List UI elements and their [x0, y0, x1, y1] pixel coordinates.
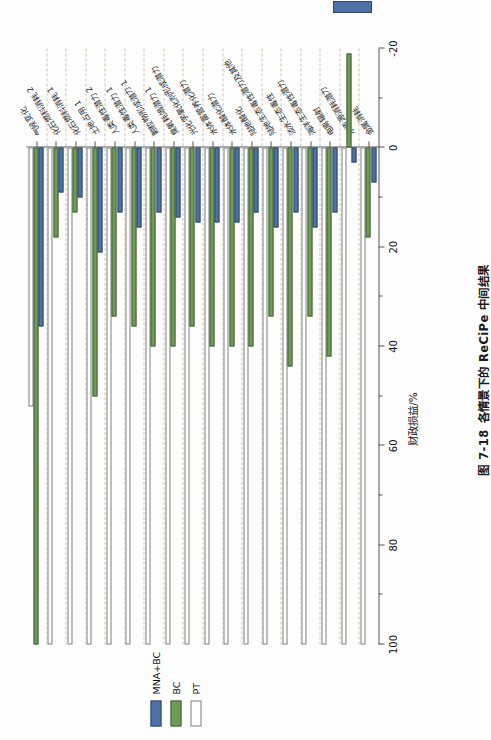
axis-tick-40 [378, 345, 384, 346]
bar-mna-bc-0 [38, 147, 43, 326]
bar-pt-13 [282, 147, 287, 644]
bar-mna-bc-13 [293, 147, 298, 212]
category-tick [310, 141, 311, 147]
category-tick [231, 141, 232, 147]
bar-pt-10 [223, 147, 228, 644]
bar-bc-11 [248, 147, 253, 346]
axis-tick-80 [378, 544, 384, 545]
bar-bc-15 [326, 147, 331, 356]
category-tick [368, 141, 369, 147]
figure-caption-number: 图 7-18 [477, 429, 491, 475]
bar-bc-4 [111, 147, 116, 316]
legend-swatch-mna-bc [150, 700, 161, 726]
legend-item-bc: BC [170, 651, 181, 726]
category-tick [36, 141, 37, 147]
axis-tick-0 [378, 146, 384, 147]
gridline [202, 48, 203, 644]
bar-mna-bc-8 [195, 147, 200, 222]
bar-mna-bc-5 [136, 147, 141, 226]
category-tick [192, 141, 193, 147]
axis-tick-20 [378, 246, 384, 247]
category-tick [212, 141, 213, 147]
axis-minor-tick-90 [378, 593, 382, 594]
bar-pt-0 [28, 147, 33, 405]
axis-ticklabel-100: 100 [387, 634, 398, 653]
legend-swatch-pt [190, 700, 201, 726]
bar-bc-3 [92, 147, 97, 395]
gridline [300, 48, 301, 644]
category-tick [329, 141, 330, 147]
axis-minor-tick-70 [378, 494, 382, 495]
bar-bc-6 [150, 147, 155, 346]
category-tick [173, 141, 174, 147]
axis-tick--20 [378, 47, 384, 48]
gridline [261, 48, 262, 644]
bar-pt-9 [204, 147, 209, 644]
axis-tick-100 [378, 643, 384, 644]
axis-ticklabel-20: 20 [387, 240, 398, 253]
value-axis-title: 财政损益/% [404, 392, 419, 446]
gridline [65, 48, 66, 644]
legend-item-mna-bc: MNA+BC [150, 651, 161, 726]
bar-pt-5 [125, 147, 130, 644]
category-tick [251, 141, 252, 147]
axis-ticklabel-60: 60 [387, 439, 398, 452]
gridline [241, 48, 242, 644]
figure-caption: 图 7-18各情景下的 ReCiPe 中间结果 [475, 220, 491, 520]
bar-mna-bc-3 [97, 147, 102, 251]
bar-bc-14 [307, 147, 312, 316]
category-tick [270, 141, 271, 147]
axis-ticklabel--20: -20 [387, 40, 398, 56]
category-tick [290, 141, 291, 147]
bar-mna-bc-14 [312, 147, 317, 226]
bar-mna-bc-12 [273, 147, 278, 226]
axis-minor-tick-50 [378, 395, 382, 396]
gridline [104, 48, 105, 644]
bar-mna-bc-4 [117, 147, 122, 212]
chart-plot-area: 100806040200-20 财政损益/% 气候变化化石燃料消耗 2化石燃料消… [26, 48, 378, 644]
bar-pt-16 [341, 147, 346, 644]
gridline [358, 48, 359, 644]
category-tick [153, 141, 154, 147]
bar-pt-6 [145, 147, 150, 644]
gridline [163, 48, 164, 644]
bar-pt-3 [86, 147, 91, 644]
legend-swatch-bc [170, 700, 181, 726]
category-tick [75, 141, 76, 147]
bar-pt-15 [321, 147, 326, 644]
gridline [222, 48, 223, 644]
bar-pt-12 [262, 147, 267, 644]
gridline [46, 48, 47, 644]
bar-pt-7 [165, 147, 170, 644]
gridline [280, 48, 281, 644]
figure-caption-text: 各情景下的 ReCiPe 中间结果 [477, 264, 491, 423]
bar-mna-bc-17 [371, 147, 376, 182]
bar-pt-17 [360, 147, 365, 644]
bar-mna-bc-7 [175, 147, 180, 217]
bar-pt-14 [301, 147, 306, 644]
category-tick [114, 141, 115, 147]
bar-pt-8 [184, 147, 189, 644]
gridline [319, 48, 320, 644]
gridline [143, 48, 144, 644]
axis-ticklabel-40: 40 [387, 340, 398, 353]
bar-pt-2 [67, 147, 72, 644]
bar-mna-bc-10 [234, 147, 239, 222]
legend-label-pt: PT [190, 682, 201, 694]
bar-mna-bc-2 [77, 147, 82, 197]
category-tick [94, 141, 95, 147]
bar-bc-1 [53, 147, 58, 236]
chart-legend: MNA+BC BC PT [150, 651, 201, 726]
bar-pt-4 [106, 147, 111, 644]
bar-mna-bc-6 [156, 147, 161, 212]
bar-bc-0 [33, 147, 38, 644]
legend-item-pt: PT [190, 651, 201, 726]
category-tick [134, 141, 135, 147]
bar-bc-5 [131, 147, 136, 326]
bar-mna-bc-9 [214, 147, 219, 222]
legend-label-bc: BC [170, 681, 181, 694]
value-axis-ticks: 100806040200-20 [378, 48, 379, 644]
axis-tick-60 [378, 444, 384, 445]
bar-bc-17 [365, 147, 370, 236]
